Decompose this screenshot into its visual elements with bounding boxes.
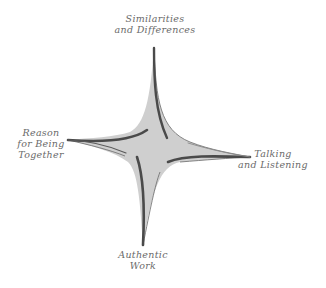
label-bottom-line-1: Authentic xyxy=(112,249,174,260)
label-top-line-1: Similarities xyxy=(112,13,198,24)
label-left-line-2: for Being xyxy=(12,138,70,149)
label-top-line-2: and Differences xyxy=(112,24,198,35)
label-right-line-2: and Listening xyxy=(236,159,310,170)
label-right-line-1: Talking xyxy=(236,148,310,159)
label-right: Talking and Listening xyxy=(236,148,310,170)
label-left-line-3: Together xyxy=(12,149,70,160)
label-bottom-line-2: Work xyxy=(112,260,174,271)
label-left: Reason for Being Together xyxy=(12,127,70,160)
label-bottom: Authentic Work xyxy=(112,249,174,271)
label-top: Similarities and Differences xyxy=(112,13,198,35)
label-left-line-1: Reason xyxy=(12,127,70,138)
star-diagram: Similarities and Differences Reason for … xyxy=(0,0,326,288)
